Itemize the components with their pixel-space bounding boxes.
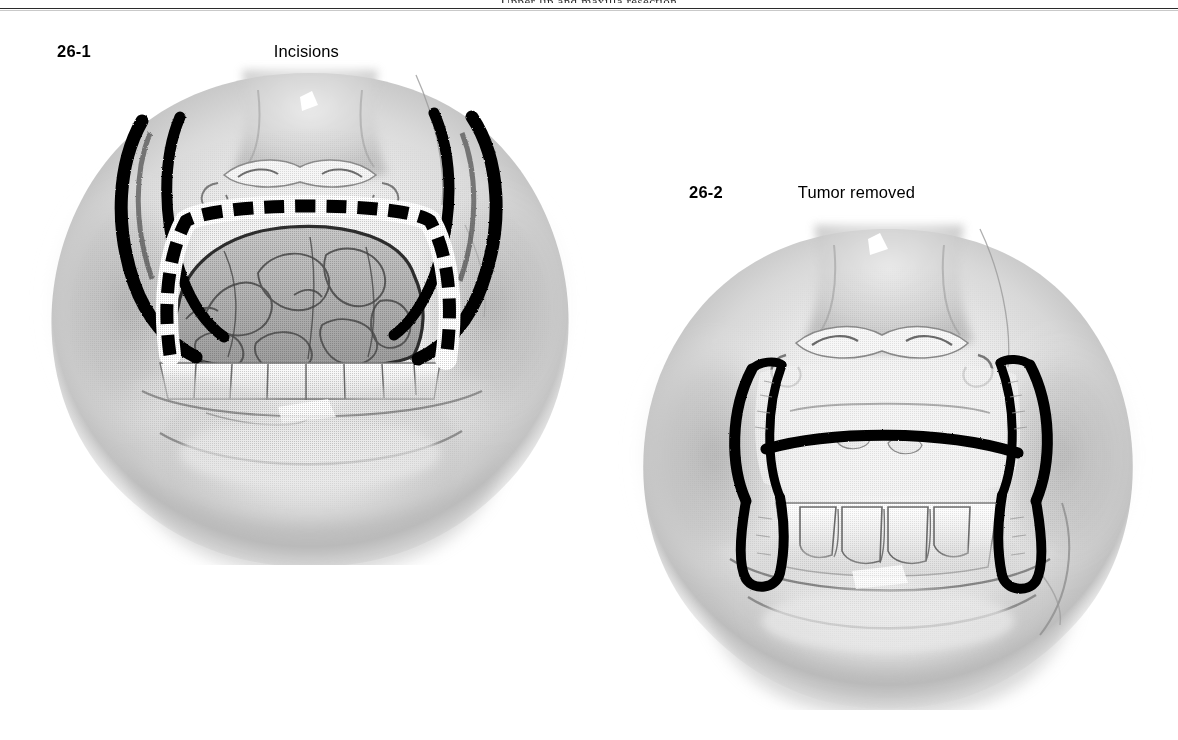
figure-2-illustration-tumor-removed (600, 215, 1170, 710)
figure-1-svg (10, 55, 610, 565)
figure-2-caption: Tumor removed (798, 183, 915, 201)
figure-2-svg (600, 215, 1170, 710)
resection-bed (755, 361, 1020, 496)
running-head: Upper lip and maxilla resection (0, 0, 1178, 3)
figure-2-number: 26-2 (689, 183, 723, 201)
figure-2-label: 26-2Tumor removed (689, 183, 915, 202)
figure-1-illustration-incisions (10, 55, 610, 565)
header-rule (0, 8, 1178, 9)
